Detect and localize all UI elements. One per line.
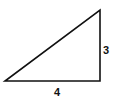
vertical-side-label: 3 — [103, 44, 109, 56]
triangle-diagram: 3 4 — [0, 0, 123, 104]
horizontal-side-label: 4 — [54, 86, 61, 98]
right-triangle — [5, 10, 100, 81]
